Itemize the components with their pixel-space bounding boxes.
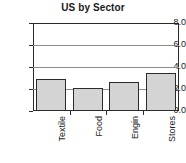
x-axis-label-textile: Textile — [56, 116, 68, 162]
bars-group — [33, 23, 179, 111]
x-axis-tick-mark — [106, 111, 107, 115]
bar-stores — [146, 73, 176, 111]
x-axis-tick-mark — [143, 111, 144, 115]
x-axis-tick-mark — [70, 111, 71, 115]
bar-chart: US by Sector 0.02.04.06.08.0 TextileFood… — [0, 0, 186, 163]
bar-engin — [109, 82, 139, 111]
y-axis-tick-mark — [29, 111, 33, 112]
bar-textile — [36, 79, 66, 111]
x-axis-label-engin: Engin — [129, 116, 141, 162]
x-axis-label-stores: Stores — [166, 116, 178, 162]
x-axis-label-food: Food — [93, 116, 105, 162]
chart-title: US by Sector — [0, 2, 186, 14]
x-axis-labels: TextileFoodEnginStores — [33, 116, 179, 163]
bar-food — [73, 88, 103, 111]
